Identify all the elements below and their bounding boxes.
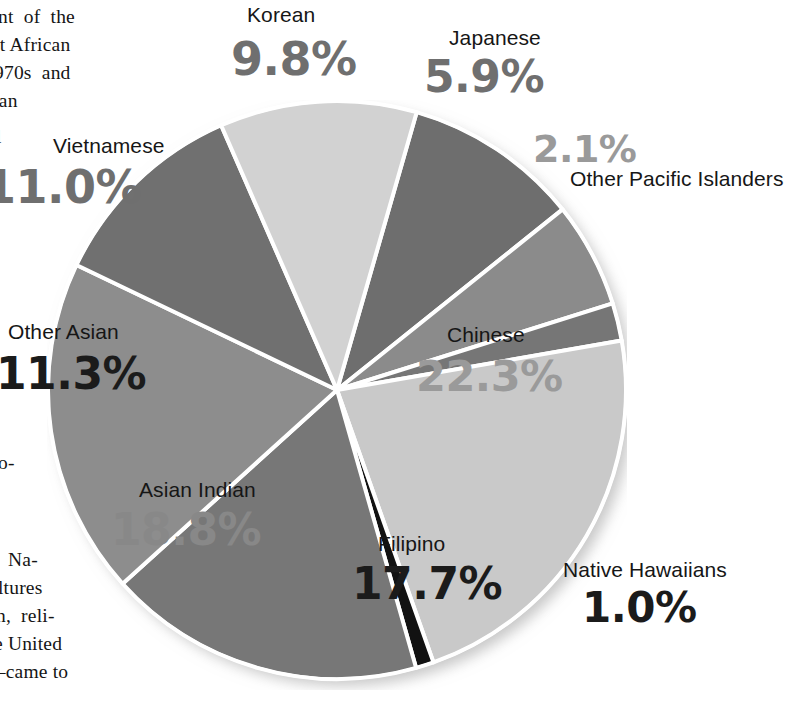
slice-label-korean: Korean [247,3,315,27]
slice-label-native-hawaiians: Native Hawaiians [563,558,727,582]
body-text-line-3: 970s and [0,62,71,84]
slice-label-vietnamese: Vietnamese [53,134,165,158]
slice-percent-korean: 9.8% [231,36,357,82]
body-text-line-4: can [0,90,18,112]
slice-percent-native-hawaiians: 1.0% [582,587,696,629]
slice-percent-chinese: 22.3% [416,355,563,398]
body-text-line-7: Na- [8,549,38,571]
body-text-line-5: l [0,126,2,148]
slice-percent-vietnamese: 11.0% [0,164,141,210]
slice-label-other-asian: Other Asian [8,320,119,344]
slice-percent-japanese: 5.9% [424,55,544,99]
slice-percent-other-pacific-islanders: 2.1% [533,130,636,168]
body-text-line-6: oo- [0,452,15,474]
page-canvas: nt of the st African 970s and can l oo- … [0,0,805,704]
slice-percent-filipino: 17.7% [352,562,502,606]
slice-label-filipino: Filipino [378,532,445,556]
slice-label-asian-indian: Asian Indian [139,478,256,502]
body-text-line-8: ultures [0,577,42,599]
slice-label-chinese: Chinese [447,323,525,347]
slice-label-japanese: Japanese [449,26,541,50]
slice-percent-other-asian: 11.3% [0,352,146,396]
body-text-line-2: st African [0,34,70,56]
body-text-line-1: nt of the [0,6,75,28]
slice-percent-asian-indian: 18.8% [111,508,261,552]
